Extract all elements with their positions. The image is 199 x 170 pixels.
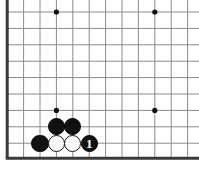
star-point: [152, 108, 157, 113]
board-grid: [0, 0, 199, 170]
star-point: [152, 9, 157, 14]
star-point: [54, 108, 59, 113]
go-board-diagram: 1: [0, 0, 199, 170]
grid-lines: [7, 0, 199, 158]
board-border: [6, 0, 199, 158]
star-point: [54, 9, 59, 14]
